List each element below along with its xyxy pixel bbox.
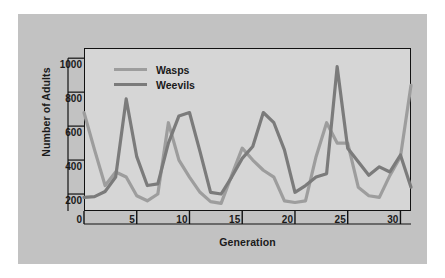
chart-legend: Wasps Weevils <box>114 62 244 92</box>
legend-swatch-wasps <box>114 68 147 72</box>
legend-item: Wasps <box>114 62 244 77</box>
legend-label-weevils: Weevils <box>156 79 195 91</box>
chart-svg <box>18 14 427 264</box>
series-layer <box>18 14 427 264</box>
figure-panel: 2004006008001000 051015202530 Number of … <box>18 14 427 264</box>
y-axis-title: Number of Adults <box>40 58 52 166</box>
x-axis-title: Generation <box>84 236 411 248</box>
legend-label-wasps: Wasps <box>156 64 189 76</box>
legend-item: Weevils <box>114 77 244 92</box>
legend-swatch-weevils <box>114 83 147 87</box>
